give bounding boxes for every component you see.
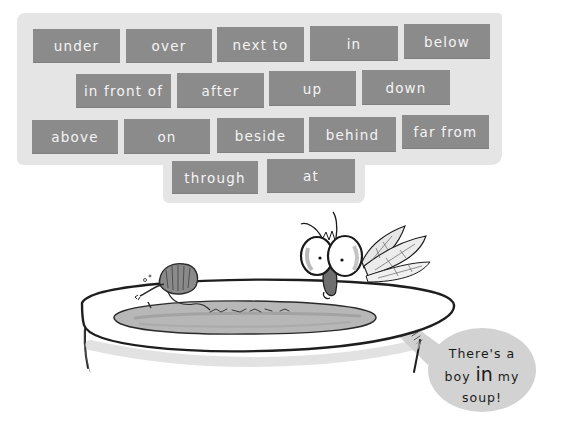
- emphasized-word: in: [476, 363, 493, 385]
- speech-line-1: There's a: [432, 343, 532, 364]
- speech-line-3: soup!: [432, 387, 532, 408]
- speech-bubble: There's a boy in my soup!: [432, 343, 532, 408]
- speech-line-2: boy in my: [432, 364, 532, 387]
- bowl-icon: [82, 280, 454, 372]
